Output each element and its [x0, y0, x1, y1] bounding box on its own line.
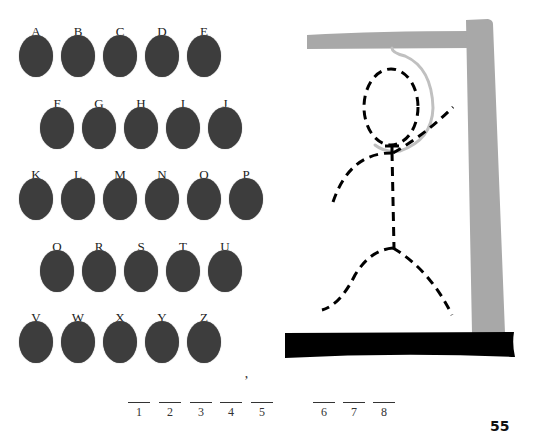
letter-button-d[interactable]: D: [145, 25, 179, 81]
letter-button-k[interactable]: K: [19, 168, 53, 224]
letter-button-u[interactable]: U: [208, 240, 242, 296]
letter-button-g[interactable]: G: [82, 97, 116, 153]
letter-disc[interactable]: [61, 321, 95, 363]
blank-number: 7: [343, 405, 365, 420]
apostrophe: ’: [244, 374, 249, 390]
letter-button-h[interactable]: H: [124, 97, 158, 153]
gallows-post: [466, 19, 505, 333]
figure-right-arm: [393, 107, 453, 153]
letter-button-s[interactable]: S: [124, 240, 158, 296]
blank-line: [313, 402, 335, 403]
blank-line: [343, 402, 365, 403]
letter-disc[interactable]: [124, 250, 158, 292]
letter-disc[interactable]: [208, 107, 242, 149]
blank-line: [373, 402, 395, 403]
letter-disc[interactable]: [145, 35, 179, 77]
blank-number: 6: [313, 405, 335, 420]
blank-line: [159, 402, 181, 403]
letter-button-c[interactable]: C: [103, 25, 137, 81]
blank-line: [190, 402, 212, 403]
blank-number: 8: [373, 405, 395, 420]
letter-button-m[interactable]: M: [103, 168, 137, 224]
letter-disc[interactable]: [19, 321, 53, 363]
letter-disc[interactable]: [187, 321, 221, 363]
blank-number: 2: [159, 405, 181, 420]
blank-line: [220, 402, 242, 403]
figure-head: [364, 69, 418, 145]
letter-button-n[interactable]: N: [145, 168, 179, 224]
letter-disc[interactable]: [82, 250, 116, 292]
letter-button-q[interactable]: Q: [40, 240, 74, 296]
figure-body: [392, 152, 394, 248]
figure-left-arm: [333, 153, 393, 202]
letter-button-l[interactable]: L: [61, 168, 95, 224]
figure-right-leg: [393, 248, 452, 315]
letter-button-x[interactable]: X: [103, 311, 137, 367]
letter-disc[interactable]: [166, 107, 200, 149]
letter-disc[interactable]: [187, 178, 221, 220]
letter-disc[interactable]: [103, 178, 137, 220]
letter-disc[interactable]: [208, 250, 242, 292]
letter-disc[interactable]: [61, 35, 95, 77]
gallows-base: [285, 332, 515, 358]
letter-button-r[interactable]: R: [82, 240, 116, 296]
blank-number: 4: [220, 405, 242, 420]
letter-button-t[interactable]: T: [166, 240, 200, 296]
letter-button-b[interactable]: B: [61, 25, 95, 81]
figure-left-leg: [322, 248, 393, 310]
letter-button-a[interactable]: A: [19, 25, 53, 81]
letter-disc[interactable]: [145, 321, 179, 363]
letter-disc[interactable]: [187, 35, 221, 77]
letter-button-e[interactable]: E: [187, 25, 221, 81]
letter-disc[interactable]: [61, 178, 95, 220]
letter-disc[interactable]: [40, 250, 74, 292]
letter-button-z[interactable]: Z: [187, 311, 221, 367]
letter-button-o[interactable]: O: [187, 168, 221, 224]
letter-button-y[interactable]: Y: [145, 311, 179, 367]
letter-button-p[interactable]: P: [229, 168, 263, 224]
rope: [375, 48, 433, 151]
letter-disc[interactable]: [124, 107, 158, 149]
letter-disc[interactable]: [103, 321, 137, 363]
blank-number: 1: [128, 405, 150, 420]
letter-disc[interactable]: [166, 250, 200, 292]
blank-number: 5: [251, 405, 273, 420]
letter-button-i[interactable]: I: [166, 97, 200, 153]
letter-button-f[interactable]: F: [40, 97, 74, 153]
letter-disc[interactable]: [40, 107, 74, 149]
letter-button-v[interactable]: V: [19, 311, 53, 367]
letter-button-w[interactable]: W: [61, 311, 95, 367]
letter-disc[interactable]: [229, 178, 263, 220]
letter-disc[interactable]: [82, 107, 116, 149]
letter-disc[interactable]: [145, 178, 179, 220]
letter-button-j[interactable]: J: [208, 97, 242, 153]
blank-line: [251, 402, 273, 403]
letter-disc[interactable]: [103, 35, 137, 77]
letter-disc[interactable]: [19, 35, 53, 77]
gallows-crossbar: [307, 31, 470, 49]
blank-line: [128, 402, 150, 403]
blank-number: 3: [190, 405, 212, 420]
letter-disc[interactable]: [19, 178, 53, 220]
page-number: 55: [490, 418, 509, 434]
